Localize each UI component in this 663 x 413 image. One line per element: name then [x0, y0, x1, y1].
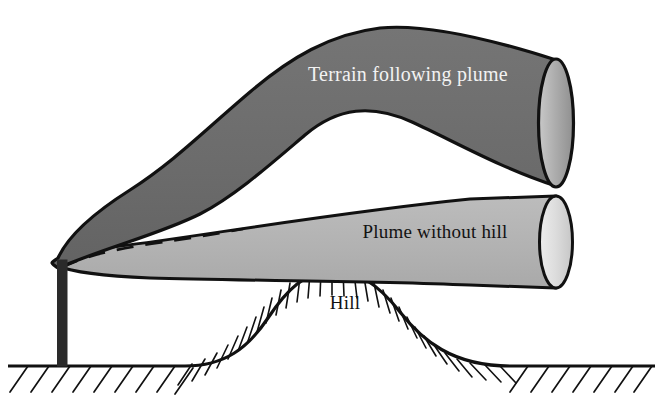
hill-group: Hill: [178, 270, 516, 385]
plume-without-hill-label: Plume without hill: [362, 221, 507, 242]
hill-hatching: [178, 270, 516, 385]
ground-group: [8, 366, 655, 394]
ground-hatching-left: [10, 366, 193, 394]
ground-hatching-right: [510, 366, 652, 392]
stack-group: [58, 260, 68, 366]
terrain-following-plume-label: Terrain following plume: [308, 63, 508, 86]
plume-diagram-figure: Hill Plume without hill Terrain followin…: [0, 0, 663, 413]
terrain-following-plume-end-cap: [539, 59, 574, 187]
hill-label: Hill: [330, 292, 360, 313]
smokestack: [58, 260, 68, 366]
plume-without-hill-end-cap: [540, 196, 573, 288]
plume-diagram-canvas: Hill Plume without hill Terrain followin…: [0, 0, 663, 413]
